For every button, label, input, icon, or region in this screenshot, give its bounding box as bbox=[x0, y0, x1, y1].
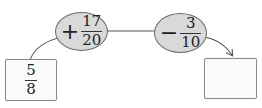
operation-add-node: + 17 20 bbox=[55, 12, 108, 51]
connector-start-to-op1 bbox=[30, 38, 58, 60]
op1-fraction: 17 20 bbox=[81, 14, 102, 49]
op1-denominator: 20 bbox=[81, 32, 102, 49]
start-fraction: 5 8 bbox=[25, 63, 37, 98]
start-value-box: 5 8 bbox=[5, 59, 57, 101]
op2-fraction: 3 10 bbox=[180, 16, 201, 51]
op2-denominator: 10 bbox=[180, 34, 201, 51]
op2-numerator: 3 bbox=[185, 16, 197, 33]
minus-sign: − bbox=[160, 22, 178, 44]
operation-subtract-node: − 3 10 bbox=[154, 13, 207, 53]
start-numerator: 5 bbox=[25, 63, 37, 80]
start-denominator: 8 bbox=[25, 81, 37, 98]
plus-sign: + bbox=[61, 21, 79, 43]
result-box[interactable] bbox=[204, 58, 257, 99]
connector-op2-to-result bbox=[204, 37, 232, 55]
op1-numerator: 17 bbox=[81, 14, 102, 31]
